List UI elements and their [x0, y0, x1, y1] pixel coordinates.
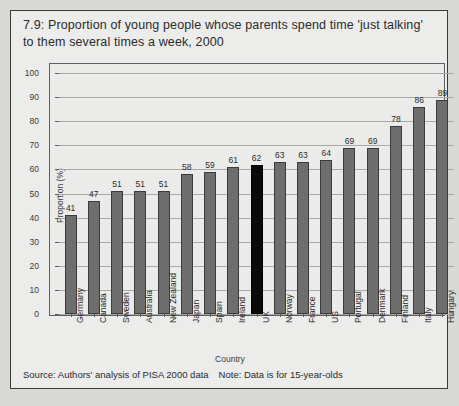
- y-tick-mark: [55, 121, 59, 122]
- y-tick-label: 100: [13, 68, 39, 78]
- bar-value-label: 51: [149, 179, 179, 189]
- bar-hungary: [436, 100, 448, 314]
- x-tick-label: France: [307, 297, 317, 323]
- y-tick-mark: [55, 242, 59, 243]
- x-tick-mark: [303, 314, 304, 317]
- source-text: Source: Authors' analysis of PISA 2000 d…: [23, 369, 209, 380]
- gridline: [59, 73, 454, 74]
- x-tick-label: Denmark: [377, 289, 387, 323]
- y-tick-label: 10: [13, 285, 39, 295]
- bar-value-label: 41: [56, 203, 86, 213]
- y-tick-mark: [55, 266, 59, 267]
- y-axis-title: Proportion (%): [55, 168, 65, 223]
- bar-spain: [204, 172, 216, 314]
- y-tick-label: 80: [13, 116, 39, 126]
- x-tick-label: New Zealand: [168, 273, 178, 323]
- bar-value-label: 78: [381, 114, 411, 124]
- bar-value-label: 89: [427, 88, 457, 98]
- x-tick-mark: [187, 314, 188, 317]
- plot-area: Proportion (%) 010203040506070809010041G…: [59, 73, 454, 314]
- figure-panel: 7.9: Proportion of young people whose pa…: [10, 10, 448, 389]
- bar-us: [320, 160, 332, 314]
- x-tick-label: Portugal: [353, 291, 363, 323]
- y-tick-label: 60: [13, 164, 39, 174]
- x-axis-title: Country: [11, 354, 449, 364]
- x-tick-mark: [396, 314, 397, 317]
- x-tick-mark: [164, 314, 165, 317]
- gridline: [59, 97, 454, 98]
- y-tick-mark: [55, 290, 59, 291]
- x-tick-label: Germany: [75, 288, 85, 323]
- x-tick-mark: [349, 314, 350, 317]
- x-tick-label: Italy: [423, 307, 433, 323]
- x-tick-mark: [140, 314, 141, 317]
- x-tick-mark: [71, 314, 72, 317]
- bar-france: [297, 162, 309, 314]
- chart-title: 7.9: Proportion of young people whose pa…: [23, 17, 435, 51]
- y-tick-label: 0: [13, 309, 39, 319]
- x-tick-label: Finland: [400, 295, 410, 323]
- x-tick-label: Sweden: [121, 292, 131, 323]
- x-tick-mark: [419, 314, 420, 317]
- x-tick-mark: [210, 314, 211, 317]
- bar-ireland: [227, 167, 239, 314]
- x-tick-label: Ireland: [237, 297, 247, 323]
- bar-value-label: 64: [311, 148, 341, 158]
- bar-value-label: 69: [358, 136, 388, 146]
- x-tick-label: US: [330, 311, 340, 323]
- note-text: Note: Data is for 15-year-olds: [219, 369, 343, 380]
- footnote: Source: Authors' analysis of PISA 2000 d…: [23, 369, 343, 380]
- bar-portugal: [343, 148, 355, 314]
- x-tick-mark: [280, 314, 281, 317]
- x-tick-label: Norway: [284, 294, 294, 323]
- bar-japan: [181, 174, 193, 314]
- x-tick-mark: [442, 314, 443, 317]
- x-tick-label: UK: [261, 311, 271, 323]
- y-tick-mark: [55, 169, 59, 170]
- y-tick-mark: [55, 194, 59, 195]
- x-tick-mark: [117, 314, 118, 317]
- x-tick-label: Canada: [98, 293, 108, 323]
- x-tick-mark: [257, 314, 258, 317]
- x-tick-mark: [373, 314, 374, 317]
- x-tick-mark: [326, 314, 327, 317]
- bar-italy: [413, 107, 425, 314]
- y-tick-mark: [55, 218, 59, 219]
- y-tick-label: 30: [13, 237, 39, 247]
- bar-finland: [390, 126, 402, 314]
- x-tick-label: Australia: [144, 290, 154, 323]
- x-tick-mark: [233, 314, 234, 317]
- x-tick-label: Japan: [191, 300, 201, 323]
- y-tick-label: 40: [13, 213, 39, 223]
- x-tick-mark: [94, 314, 95, 317]
- bar-value-label: 47: [79, 189, 109, 199]
- bar-uk: [251, 165, 263, 314]
- y-tick-label: 90: [13, 92, 39, 102]
- y-tick-label: 50: [13, 189, 39, 199]
- y-tick-mark: [55, 145, 59, 146]
- y-tick-label: 20: [13, 261, 39, 271]
- x-tick-label: Hungary: [446, 291, 456, 323]
- bar-norway: [274, 162, 286, 314]
- x-tick-label: Spain: [214, 301, 224, 323]
- y-tick-label: 70: [13, 140, 39, 150]
- y-tick-mark: [55, 314, 59, 315]
- y-tick-mark: [55, 73, 59, 74]
- y-tick-mark: [55, 97, 59, 98]
